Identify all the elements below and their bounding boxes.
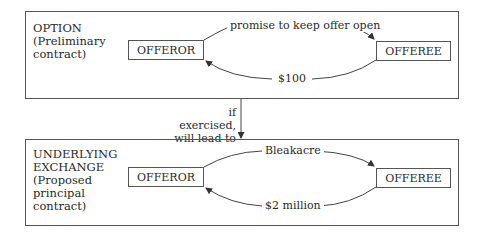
exchange-label: UNDERLYING EXCHANGE (Proposed principal … — [33, 148, 117, 213]
party-label: OFFEROR — [137, 44, 195, 57]
party-label: OFFEREE — [385, 172, 442, 185]
party-label: OFFEROR — [137, 171, 195, 184]
option-label: OPTION (Preliminary contract) — [33, 22, 106, 61]
exchange-subtitle-line: contract) — [33, 200, 117, 213]
option-offeree-box: OFFEREE — [376, 41, 451, 61]
party-label: OFFEREE — [385, 45, 442, 58]
exchange-top-flow: Bleakacre — [262, 144, 324, 157]
option-subtitle-line: contract) — [33, 48, 106, 61]
exchange-offeror-box: OFFEROR — [128, 167, 204, 187]
option-offeror-box: OFFEROR — [128, 40, 204, 60]
connector-line-text: if exercised, — [170, 106, 236, 132]
option-top-flow: promise to keep offer open — [227, 19, 383, 32]
exchange-bottom-flow: $2 million — [262, 199, 324, 212]
option-bottom-flow: $100 — [275, 72, 309, 85]
exchange-offeree-box: OFFEREE — [376, 168, 451, 188]
